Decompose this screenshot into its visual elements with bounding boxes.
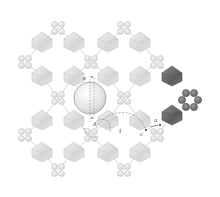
linker-atom — [92, 56, 98, 62]
linker-atom — [158, 129, 164, 135]
linker-atom — [151, 129, 157, 135]
linker-atom — [125, 171, 131, 177]
linker-atom — [125, 99, 131, 105]
linker-atom — [19, 63, 25, 69]
crystal-structure-diagram: e d f c a — [0, 0, 220, 197]
linker-atom — [52, 22, 58, 28]
linker-atom — [125, 29, 131, 35]
dark-linker-ring — [178, 90, 201, 111]
linker-atom — [85, 63, 91, 69]
linker-atom — [59, 99, 65, 105]
light-octahedron — [32, 32, 52, 52]
dark-linker-atom — [178, 96, 185, 103]
linker-atom — [151, 56, 157, 62]
label-c: c — [140, 130, 143, 138]
light-octahedron — [32, 110, 52, 130]
dark-octahedron — [162, 105, 182, 125]
linker-atom — [26, 63, 32, 69]
linker-atom — [158, 63, 164, 69]
linker-atom — [26, 56, 32, 62]
linker-atom — [26, 129, 32, 135]
light-octahedron — [130, 110, 150, 130]
linker-atom — [52, 171, 58, 177]
dark-linker-atom — [182, 90, 189, 97]
label-d: d — [93, 120, 97, 128]
linker-atom — [59, 22, 65, 28]
dark-octahedra — [162, 66, 182, 125]
light-octahedron — [130, 32, 150, 52]
light-octahedron — [98, 66, 118, 86]
linker-atom — [52, 164, 58, 170]
label-f: f — [119, 127, 122, 135]
linker-atom — [59, 92, 65, 98]
light-octahedron — [64, 110, 84, 130]
linker-atom — [19, 56, 25, 62]
linker-atom — [19, 136, 25, 142]
linker-atom — [85, 56, 91, 62]
label-a: a — [154, 116, 158, 124]
dark-linker-atom — [190, 103, 197, 110]
dark-linker-atom — [190, 90, 197, 97]
light-octahedron — [64, 66, 84, 86]
label-e: e — [83, 74, 86, 82]
linker-atom — [158, 136, 164, 142]
light-octahedron — [98, 110, 118, 130]
light-octahedron — [32, 66, 52, 86]
linker-atom — [59, 171, 65, 177]
dark-linker-atom — [182, 103, 189, 110]
linker-atom — [52, 29, 58, 35]
linker-atom — [118, 171, 124, 177]
linker-atom — [151, 63, 157, 69]
linker-atom — [118, 92, 124, 98]
linker-atom — [85, 136, 91, 142]
linker-atom — [125, 22, 131, 28]
linker-atom — [19, 129, 25, 135]
light-octahedron — [130, 66, 150, 86]
linker-atom — [118, 22, 124, 28]
linker-atom — [92, 136, 98, 142]
linker-atom — [92, 129, 98, 135]
light-octahedron — [64, 32, 84, 52]
linker-atom — [151, 136, 157, 142]
linker-atom — [52, 99, 58, 105]
linker-atom — [158, 56, 164, 62]
light-octahedron — [98, 32, 118, 52]
linker-atom — [118, 164, 124, 170]
linker-atom — [118, 29, 124, 35]
linker-atom — [59, 29, 65, 35]
linker-atom — [118, 99, 124, 105]
linker-atom — [52, 92, 58, 98]
linker-atom — [26, 136, 32, 142]
dark-linker-atom — [194, 96, 201, 103]
linker-atom — [125, 164, 131, 170]
linker-atom — [125, 92, 131, 98]
linker-atom — [59, 164, 65, 170]
linker-atom — [92, 63, 98, 69]
